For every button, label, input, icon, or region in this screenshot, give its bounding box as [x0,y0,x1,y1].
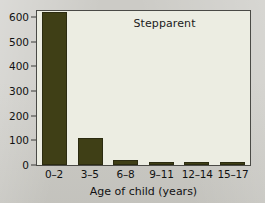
bar-slot [108,11,144,165]
y-axis: 0100200300400500600 [0,10,36,166]
bar[interactable] [220,162,245,165]
x-tick-label: 3–5 [72,168,108,180]
x-tick-label: 0–2 [36,168,72,180]
bar-series [37,11,250,165]
y-tick-label: 0 [22,159,29,171]
x-axis: 0–23–56–89–1112–1415–17 [36,168,251,180]
figure: 0100200300400500600 Stepparent 0–23–56–8… [0,0,265,203]
x-tick-label: 9–11 [143,168,179,180]
x-axis-title: Age of child (years) [36,185,251,198]
x-tick-label: 12–14 [179,168,215,180]
bar-slot [37,11,73,165]
x-tick-label: 15–17 [215,168,251,180]
bar[interactable] [42,12,67,165]
bar[interactable] [184,162,209,165]
x-tick-label: 6–8 [108,168,144,180]
plot-inner: Stepparent [37,11,250,165]
bar[interactable] [78,138,103,165]
bar-slot [144,11,180,165]
y-tick-label: 400 [9,60,29,72]
y-tick-label: 500 [9,36,29,48]
bar[interactable] [149,162,174,165]
y-tick-label: 100 [9,134,29,146]
y-tick-label: 600 [9,11,29,23]
plot-area: Stepparent [36,10,251,166]
y-tick-label: 200 [9,110,29,122]
bar[interactable] [113,160,138,165]
bar-slot [215,11,251,165]
bar-slot [179,11,215,165]
chart-title: Stepparent [37,17,250,30]
bar-slot [73,11,109,165]
y-tick-label: 300 [9,85,29,97]
